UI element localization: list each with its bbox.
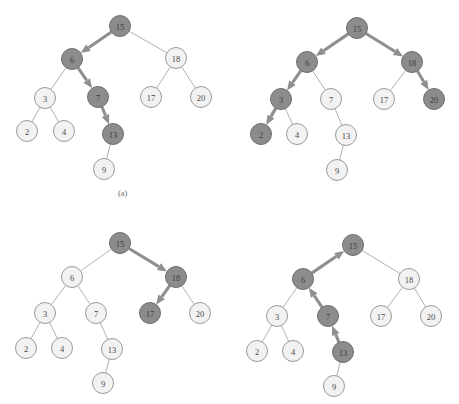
tree-node-7-highlighted: 7 (318, 306, 339, 327)
tree-node-18: 18 (399, 269, 420, 290)
tree-edge-arrowhead-icon (102, 114, 109, 124)
tree-node-9: 9 (93, 373, 114, 394)
tree-node-circle (374, 89, 395, 110)
tree-node-circle (251, 124, 272, 145)
tree-edge-highlighted (336, 334, 339, 342)
tree-node-layer: 1561837172024139 (16, 233, 211, 394)
tree-node-2: 2 (247, 341, 268, 362)
tree-edge (362, 250, 400, 273)
tree-node-circle (343, 235, 364, 256)
tree-edge (31, 322, 40, 339)
tree-edge (387, 287, 402, 307)
bst-search-step-1: 1561837172024139 (17, 16, 212, 180)
tree-node-15-highlighted: 15 (110, 16, 131, 37)
tree-node-circle (110, 16, 131, 37)
bst-search-step-3: 1561837172024139 (16, 233, 211, 394)
tree-node-circle (399, 269, 420, 290)
tree-node-circle (88, 87, 109, 108)
tree-node-7: 7 (321, 89, 342, 110)
tree-edge-highlighted (324, 34, 349, 51)
tree-edge (32, 107, 40, 122)
tree-edge-highlighted (312, 256, 337, 273)
tree-node-circle (166, 48, 187, 69)
tree-edge-highlighted (366, 34, 395, 52)
tree-diagram-canvas: 1561837172024139156183717202413915618371… (0, 0, 459, 404)
tree-node-15-highlighted: 15 (110, 233, 131, 254)
tree-node-9: 9 (94, 159, 115, 180)
tree-node-2-highlighted: 2 (251, 124, 272, 145)
tree-node-6-highlighted: 6 (293, 269, 314, 290)
tree-node-17: 17 (141, 87, 162, 108)
tree-node-4: 4 (52, 338, 73, 359)
tree-node-circle (271, 89, 292, 110)
tree-node-17: 17 (374, 89, 395, 110)
tree-edge (157, 67, 171, 88)
tree-node-circle (324, 376, 345, 397)
tree-node-circle (54, 121, 75, 142)
tree-node-4: 4 (54, 121, 75, 142)
tree-edge (51, 68, 66, 90)
tree-node-circle (110, 233, 131, 254)
tree-edge (335, 109, 342, 126)
tree-node-circle (318, 306, 339, 327)
tree-node-circle (190, 303, 211, 324)
tree-node-circle (140, 303, 161, 324)
tree-node-circle (293, 269, 314, 290)
tree-node-13-highlighted: 13 (103, 124, 124, 145)
tree-node-13: 13 (102, 339, 123, 360)
tree-edge (51, 285, 65, 304)
tree-edge (283, 288, 297, 308)
tree-node-6-highlighted: 6 (62, 49, 83, 70)
panel-caption-a: (a) (118, 188, 127, 198)
tree-node-circle (93, 373, 114, 394)
tree-edge (81, 249, 112, 271)
tree-node-circle (94, 159, 115, 180)
tree-edge-highlighted (102, 107, 106, 116)
tree-node-20: 20 (421, 306, 442, 327)
tree-node-circle (191, 87, 212, 108)
tree-edge (285, 109, 292, 125)
tree-node-circle (336, 125, 357, 146)
tree-node-circle (35, 303, 56, 324)
tree-edge (414, 288, 425, 307)
tree-node-20: 20 (191, 87, 212, 108)
tree-edge (281, 326, 288, 342)
tree-node-circle (402, 52, 423, 73)
tree-node-circle (16, 338, 37, 359)
tree-node-6-highlighted: 6 (297, 52, 318, 73)
tree-node-circle (287, 124, 308, 145)
tree-node-layer: 1561837172024139 (251, 18, 445, 181)
tree-node-circle (17, 121, 38, 142)
tree-node-17: 17 (371, 306, 392, 327)
tree-edge-highlighted (417, 71, 423, 82)
tree-node-layer: 1561837172024139 (247, 235, 442, 397)
tree-node-18-highlighted: 18 (402, 52, 423, 73)
tree-node-circle (327, 160, 348, 181)
tree-edge (78, 286, 90, 305)
tree-node-15-highlighted: 15 (347, 18, 368, 39)
tree-node-13: 13 (336, 125, 357, 146)
tree-edge-highlighted (129, 248, 159, 266)
binary-search-tree-figure: 1561837172024139156183717202413915618371… (0, 0, 459, 404)
tree-node-circle (141, 87, 162, 108)
tree-edge-highlighted (78, 68, 87, 81)
tree-node-13-highlighted: 13 (333, 342, 354, 363)
tree-node-circle (371, 306, 392, 327)
tree-node-layer: 1561837172024139 (17, 16, 212, 180)
tree-node-7: 7 (86, 303, 107, 324)
bst-search-step-4: 1561837172024139 (247, 235, 442, 397)
tree-node-7-highlighted: 7 (88, 87, 109, 108)
tree-node-circle (103, 124, 124, 145)
tree-node-circle (267, 306, 288, 327)
tree-node-circle (62, 267, 83, 288)
tree-edge (100, 323, 107, 340)
tree-node-circle (297, 52, 318, 73)
tree-node-18-highlighted: 18 (166, 267, 187, 288)
tree-node-2: 2 (16, 338, 37, 359)
tree-edge-arrowhead-icon (332, 326, 339, 336)
tree-edge (340, 145, 344, 160)
tree-node-circle (424, 89, 445, 110)
tree-node-circle (166, 267, 187, 288)
tree-node-circle (333, 342, 354, 363)
tree-node-circle (283, 341, 304, 362)
